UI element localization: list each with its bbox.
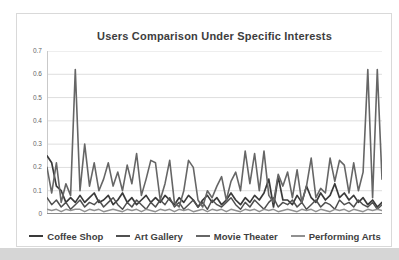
y-axis-tick-label: 0.1	[18, 187, 42, 195]
page-bottom-strip	[0, 248, 399, 260]
legend: Coffee ShopArt GalleryMovie TheaterPerfo…	[17, 227, 393, 245]
legend-label: Performing Arts	[309, 231, 381, 242]
screenshot-canvas: Users Comparison Under Specific Interest…	[0, 0, 399, 260]
legend-swatch-movie-theater	[196, 235, 210, 237]
y-axis-tick-label: 0.2	[18, 163, 42, 171]
chart-title: Users Comparison Under Specific Interest…	[47, 30, 382, 42]
y-axis-tick-label: 0	[18, 210, 42, 218]
legend-label: Coffee Shop	[47, 231, 103, 242]
legend-label: Movie Theater	[214, 231, 278, 242]
y-axis-tick-label: 0.7	[18, 47, 42, 55]
legend-item-art-gallery: Art Gallery	[116, 231, 183, 242]
legend-swatch-coffee-shop	[29, 235, 43, 237]
legend-swatch-performing-arts	[291, 235, 305, 237]
series-line-performing-arts	[47, 209, 382, 211]
chart: Users Comparison Under Specific Interest…	[16, 13, 392, 247]
legend-label: Art Gallery	[134, 231, 183, 242]
plot-area	[47, 51, 382, 214]
y-axis-tick-label: 0.6	[18, 70, 42, 78]
series-line-movie-theater	[47, 70, 382, 207]
legend-item-performing-arts: Performing Arts	[291, 231, 381, 242]
y-axis-tick-label: 0.4	[18, 117, 42, 125]
legend-item-coffee-shop: Coffee Shop	[29, 231, 103, 242]
legend-item-movie-theater: Movie Theater	[196, 231, 278, 242]
y-axis: 00.10.20.30.40.50.60.7	[17, 14, 45, 224]
y-axis-tick-label: 0.3	[18, 140, 42, 148]
y-axis-tick-label: 0.5	[18, 94, 42, 102]
legend-swatch-art-gallery	[116, 235, 130, 237]
